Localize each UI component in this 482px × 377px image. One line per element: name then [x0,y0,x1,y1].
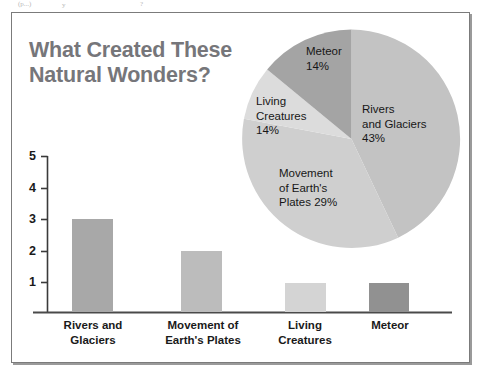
pie-label-movement-of-earths-plates: Movement of Earth's Plates 29% [279,166,389,210]
bar-meteor [369,283,409,312]
y-tick-label-3: 3 [20,212,36,226]
bar-movement-of-earths-plates [181,251,222,312]
y-tick-label-4: 4 [20,181,36,195]
scan-artifact-1: (p...) [18,0,31,8]
category-label-rivers-and-glaciers: Rivers and Glaciers [42,318,144,348]
pie-label-meteor: Meteor 14% [306,44,386,73]
scan-artifact-3: ? [140,0,143,8]
y-tick-label-2: 2 [20,244,36,258]
scan-artifacts: (p...) y ? [0,0,482,10]
pie-label-rivers-and-glaciers: Rivers and Glaciers 43% [362,102,457,146]
pie-label-living-creatures: Living Creatures 14% [256,94,336,138]
y-tick-label-5: 5 [20,149,36,163]
y-tick-label-1: 1 [20,275,36,289]
category-label-meteor: Meteor [345,318,435,333]
bar-rivers-and-glaciers [72,219,113,312]
scan-artifact-2: y [62,1,66,9]
category-label-living-creatures: Living Creatures [259,318,351,348]
category-label-movement-of-earths-plates: Movement of Earth's Plates [148,318,258,348]
bar-living-creatures [285,283,326,312]
